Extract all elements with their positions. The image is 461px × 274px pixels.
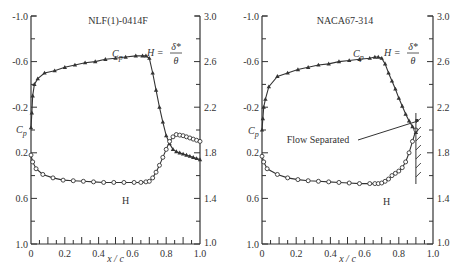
circle-marker [260, 154, 264, 158]
circle-marker [286, 176, 290, 180]
circle-marker [102, 180, 106, 184]
triangle-marker [400, 104, 404, 108]
circle-marker [61, 178, 65, 182]
triangle-marker [393, 87, 397, 91]
triangle-marker [161, 120, 165, 124]
x-tick-label: 0.4 [324, 248, 337, 259]
h-curve-label: H [383, 196, 390, 207]
y-right-tick-label: 2.6 [204, 56, 217, 67]
svg-text:H =: H = [383, 47, 400, 58]
triangle-marker [157, 105, 161, 109]
circle-marker [112, 180, 116, 184]
triangle-marker [154, 88, 158, 92]
circle-marker [147, 179, 151, 183]
circle-marker [198, 139, 202, 143]
triangle-marker [174, 149, 178, 153]
circle-marker [168, 139, 172, 143]
y-right-tick-label: 2.2 [204, 102, 217, 113]
circle-marker [410, 139, 414, 143]
circle-marker [387, 177, 391, 181]
series-line-cp [262, 57, 416, 132]
chart-title: NACA67-314 [317, 15, 374, 26]
circle-marker [327, 180, 331, 184]
triangle-marker [261, 116, 265, 120]
triangle-marker [29, 125, 33, 129]
y-left-tick-label: -1.0 [12, 11, 28, 22]
circle-marker [161, 155, 165, 159]
cp-curve-label: Cp [112, 48, 123, 62]
flow-separated-annotation: Flow Separated [287, 113, 421, 184]
y-right-tick-label: 1.8 [437, 147, 450, 158]
x-tick-label: 1.0 [427, 248, 440, 259]
chart-panel-1: -1.0-0.6-0.20.20.61.03.02.62.21.81.41.00… [12, 11, 216, 265]
circle-marker [296, 178, 300, 182]
y-left-axis-label: Cp [248, 125, 259, 139]
circle-marker [368, 182, 372, 186]
triangle-marker [397, 96, 401, 100]
circle-marker [122, 180, 126, 184]
triangle-marker [150, 71, 154, 75]
y-left-tick-label: 0.2 [16, 147, 29, 158]
y-left-tick-label: 0.6 [16, 193, 29, 204]
x-axis-label: x / c [338, 253, 356, 264]
x-tick-label: 0 [29, 248, 34, 259]
y-left-tick-label: -0.6 [243, 56, 259, 67]
circle-marker [397, 169, 401, 173]
y-left-tick-label: -0.2 [12, 102, 28, 113]
circle-marker [41, 172, 45, 176]
y-right-tick-label: 1.0 [204, 237, 217, 248]
x-tick-label: 0 [260, 248, 265, 259]
triangle-marker [386, 71, 390, 75]
triangle-marker [164, 133, 168, 137]
circle-marker [81, 179, 85, 183]
chart-title: NLF(1)-0414F [88, 15, 148, 27]
svg-text:H =: H = [146, 47, 163, 58]
y-right-tick-label: 1.8 [204, 147, 217, 158]
y-left-tick-label: -1.0 [243, 11, 259, 22]
figure: -1.0-0.6-0.20.20.61.03.02.62.21.81.41.00… [0, 0, 461, 274]
circle-marker [71, 179, 75, 183]
x-tick-label: 0.2 [290, 248, 303, 259]
shape-factor-formula: H =δ*θ [146, 41, 182, 66]
x-tick-label: 0.8 [160, 248, 173, 259]
y-right-tick-label: 2.2 [437, 102, 450, 113]
x-axis-label: x / c [106, 253, 124, 264]
y-right-tick-label: 1.4 [437, 193, 450, 204]
y-left-tick-label: 1.0 [247, 239, 260, 250]
circle-marker [262, 160, 266, 164]
shape-factor-formula: H =δ*θ [383, 41, 419, 66]
circle-marker [306, 179, 310, 183]
y-left-tick-label: 0.2 [247, 147, 260, 158]
circle-marker [316, 179, 320, 183]
circle-marker [157, 163, 161, 167]
x-tick-label: 0.2 [59, 248, 72, 259]
svg-text:δ*: δ* [408, 41, 418, 52]
y-right-tick-label: 3.0 [437, 11, 450, 22]
circle-marker [154, 170, 158, 174]
y-left-axis-label: Cp [16, 124, 27, 138]
triangle-marker [263, 97, 267, 101]
y-left-tick-label: -0.2 [243, 102, 259, 113]
circle-marker [400, 166, 404, 170]
circle-marker [151, 176, 155, 180]
circle-marker [407, 151, 411, 155]
circle-marker [132, 180, 136, 184]
circle-marker [265, 167, 269, 171]
x-tick-label: 0.4 [92, 248, 105, 259]
svg-text:δ*: δ* [171, 41, 181, 52]
circle-marker [347, 181, 351, 185]
svg-text:θ: θ [174, 55, 179, 66]
circle-marker [275, 172, 279, 176]
circle-marker [92, 180, 96, 184]
y-right-tick-label: 1.4 [204, 193, 217, 204]
triangle-marker [407, 119, 411, 123]
circle-marker [404, 160, 408, 164]
x-tick-label: 1.0 [194, 248, 207, 259]
circle-marker [29, 153, 33, 157]
circle-marker [337, 180, 341, 184]
x-tick-label: 0.6 [358, 248, 371, 259]
svg-text:θ: θ [411, 55, 416, 66]
circle-marker [34, 167, 38, 171]
flow-separated-label: Flow Separated [287, 134, 350, 145]
h-curve-label: H [122, 195, 129, 206]
